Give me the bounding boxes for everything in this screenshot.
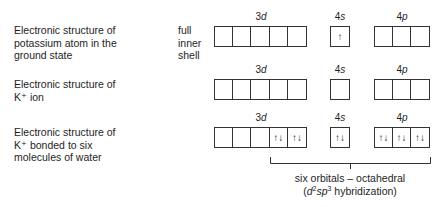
hybridization-caption: six orbitals – octahedral (d2sp3 hybridi… — [270, 172, 430, 198]
caption-rest: hybridization) — [331, 185, 396, 197]
caption-sp: sp — [316, 185, 327, 197]
caption-line2: (d2sp3 hybridization) — [270, 185, 430, 198]
caption-line1: six orbitals – octahedral — [270, 172, 430, 185]
